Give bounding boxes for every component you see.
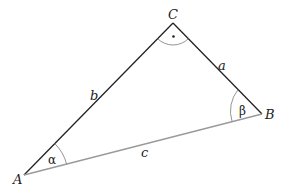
angle-label-alpha: α: [48, 153, 56, 167]
side-label-a: a: [218, 58, 226, 73]
vertex-label-c: C: [168, 7, 178, 22]
angle-arc-alpha: [55, 144, 67, 165]
angle-arc-beta: [230, 90, 238, 122]
vertex-label-b: B: [264, 107, 275, 122]
angle-label-beta: β: [239, 104, 246, 118]
triangle-diagram: A B C b a c α β: [0, 0, 283, 189]
angle-arc-gamma: [158, 39, 189, 45]
right-angle-dot: [172, 35, 175, 38]
side-b: [24, 23, 173, 175]
side-label-b: b: [90, 88, 98, 103]
side-label-c: c: [141, 145, 149, 160]
vertex-label-a: A: [12, 172, 22, 187]
